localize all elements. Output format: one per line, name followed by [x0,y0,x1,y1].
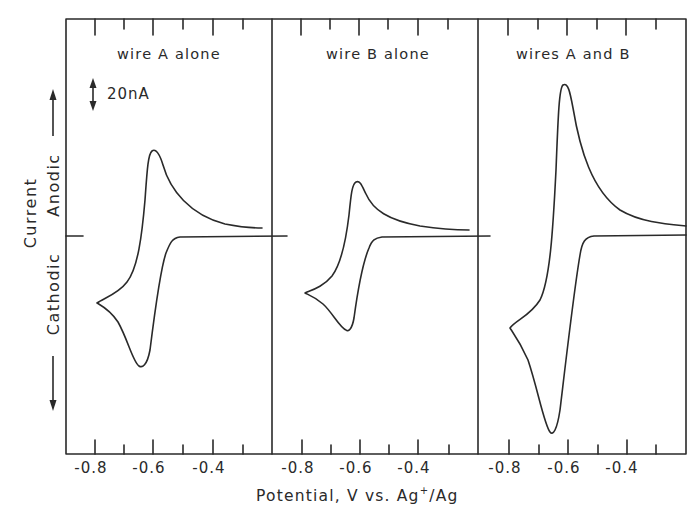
cyclic-voltammogram-figure: wire A alone wire B alone wires A and B … [0,0,700,520]
cv-curve-wires-a-and-b [510,84,686,433]
x-axis-label-tail: /Ag [429,487,458,505]
anodic-label: Anodic [44,153,63,216]
panel-title-wire-a: wire A alone [117,46,221,62]
cv-curve-wire-b [305,182,490,331]
tick-label: -0.4 [397,459,430,477]
scale-bar-label: 20nA [107,85,150,103]
x-axis-label-main: Potential, V vs. Ag [256,487,420,505]
plot-canvas [0,0,700,520]
tick-label: -0.4 [192,459,225,477]
x-axis-label-superscript: + [420,485,430,496]
x-ticks-panel-c [509,440,656,454]
tick-label: -0.8 [488,459,521,477]
tick-label: -0.6 [132,459,165,477]
y-axis-label: Current [21,178,40,249]
cv-curve-wire-a [97,150,287,366]
panel-title-wires-a-and-b: wires A and B [516,46,631,62]
x-ticks-panel-a [95,440,243,454]
tick-label: -0.6 [547,459,580,477]
x-axis-label: Potential, V vs. Ag+/Ag [256,485,459,505]
top-ticks [95,19,656,35]
cathodic-label: Cathodic [44,253,63,336]
cathodic-arrow-icon [50,356,57,411]
scale-bar [90,78,97,111]
anodic-arrow-icon [50,89,57,136]
tick-label: -0.8 [281,459,314,477]
tick-label: -0.8 [74,459,107,477]
tick-label: -0.6 [339,459,372,477]
x-ticks-panel-b [302,440,449,454]
tick-label: -0.4 [605,459,638,477]
panel-title-wire-b: wire B alone [326,46,430,62]
